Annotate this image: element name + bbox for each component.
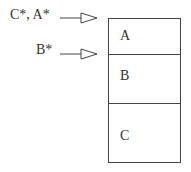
- stack-cell-a-label: A: [120, 29, 130, 43]
- memory-stack: [108, 19, 181, 163]
- pointer-arrow-ca: [60, 13, 97, 23]
- stack-cell-b-label: B: [120, 69, 129, 83]
- pointer-label-ca: C*, A*: [10, 8, 50, 22]
- pointer-arrow-b: [60, 49, 97, 59]
- pointer-label-b: B*: [36, 43, 52, 57]
- diagram-canvas: [0, 0, 191, 172]
- stack-cell-c-label: C: [120, 129, 129, 143]
